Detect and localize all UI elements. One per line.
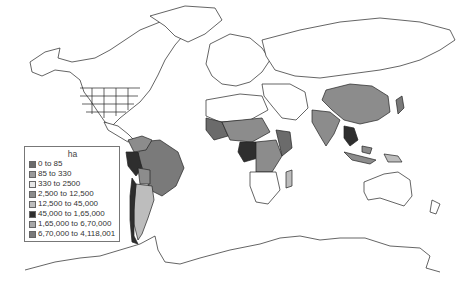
legend-swatch <box>29 211 36 218</box>
legend-label: 85 to 330 <box>38 169 71 179</box>
legend-item: 0 to 85 <box>29 159 116 169</box>
legend-label: 1,65,000 to 6,70,000 <box>38 219 111 229</box>
region-argentina <box>134 184 154 240</box>
region-southern-africa <box>250 172 280 204</box>
region-india <box>312 110 340 146</box>
region-congo-basin <box>256 140 282 172</box>
legend-label: 0 to 85 <box>38 159 62 169</box>
legend-swatch <box>29 221 36 228</box>
legend-label: 330 to 2500 <box>38 179 80 189</box>
region-new-zealand <box>430 200 440 214</box>
region-russia <box>262 18 455 78</box>
map-legend: ha 0 to 85 85 to 330 330 to 2500 2,500 t… <box>24 146 120 242</box>
legend-swatch <box>29 181 36 188</box>
legend-swatch <box>29 171 36 178</box>
region-sahel <box>222 118 270 142</box>
region-bolivia <box>138 168 150 184</box>
region-north-africa <box>206 94 268 122</box>
region-middle-east <box>262 84 308 120</box>
legend-title: ha <box>29 149 116 159</box>
legend-swatch <box>29 201 36 208</box>
legend-item: 330 to 2500 <box>29 179 116 189</box>
legend-label: 2,500 to 12,500 <box>38 189 94 199</box>
legend-swatch <box>29 161 36 168</box>
region-japan <box>396 96 404 114</box>
region-australia <box>364 172 412 206</box>
legend-item: 1,65,000 to 6,70,000 <box>29 219 116 229</box>
region-indonesia <box>344 146 376 164</box>
legend-label: 45,000 to 1,65,000 <box>38 209 105 219</box>
region-madagascar <box>286 170 292 188</box>
legend-swatch <box>29 231 36 238</box>
legend-item: 45,000 to 1,65,000 <box>29 209 116 219</box>
region-europe <box>206 34 270 86</box>
region-north-america <box>30 18 188 126</box>
region-central-africa <box>238 142 258 162</box>
region-se-asia <box>344 126 358 146</box>
legend-swatch <box>29 191 36 198</box>
legend-item: 12,500 to 45,000 <box>29 199 116 209</box>
region-png <box>384 154 402 162</box>
legend-item: 85 to 330 <box>29 169 116 179</box>
region-central-america <box>104 122 134 142</box>
legend-item: 2,500 to 12,500 <box>29 189 116 199</box>
legend-label: 6,70,000 to 4,118,001 <box>38 229 115 239</box>
legend-item: 6,70,000 to 4,118,001 <box>29 229 116 239</box>
legend-label: 12,500 to 45,000 <box>38 199 98 209</box>
